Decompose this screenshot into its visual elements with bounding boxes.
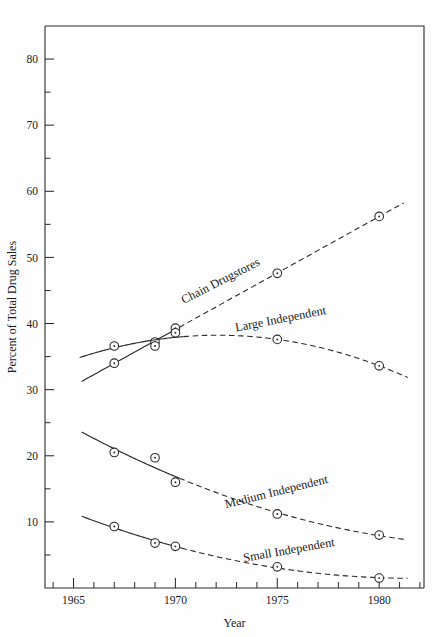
data-point-center: [154, 345, 156, 347]
y-tick-label: 10: [27, 516, 39, 528]
data-point-center: [378, 215, 380, 217]
data-point-center: [113, 362, 115, 364]
data-point-center: [113, 526, 115, 528]
data-point-center: [113, 345, 115, 347]
x-axis-title: Year: [223, 616, 245, 630]
y-tick-label: 50: [27, 252, 39, 264]
series-line-solid: [82, 327, 180, 381]
y-tick-label: 60: [27, 185, 39, 197]
chart-canvas: 10203040506070801965197019751980YearPerc…: [0, 0, 439, 637]
chart-figure: 10203040506070801965197019751980YearPerc…: [0, 0, 439, 637]
y-tick-label: 40: [27, 318, 39, 330]
series-label-small-independent: Small Independent: [242, 535, 336, 565]
y-tick-label: 80: [27, 53, 39, 65]
data-point-center: [154, 457, 156, 459]
data-point-center: [113, 452, 115, 454]
data-point-center: [378, 577, 380, 579]
data-point-center: [378, 534, 380, 536]
data-point-center: [174, 481, 176, 483]
y-tick-label: 30: [27, 384, 39, 396]
data-point-center: [276, 513, 278, 515]
data-point-center: [174, 332, 176, 334]
series-label-chain-drugstores: Chain Drugstores: [179, 255, 263, 307]
data-point-center: [174, 545, 176, 547]
data-point-center: [378, 365, 380, 367]
series-line-dashed: [179, 203, 403, 327]
x-tick-label: 1970: [164, 594, 187, 606]
series-label-medium-independent: Medium Independent: [223, 472, 329, 511]
y-tick-label: 20: [27, 450, 39, 462]
series-line-solid: [82, 432, 180, 478]
data-point-center: [276, 338, 278, 340]
x-tick-label: 1975: [266, 594, 289, 606]
data-point-center: [154, 542, 156, 544]
x-tick-label: 1980: [368, 594, 391, 606]
y-axis-title: Percent of Total Drug Sales: [5, 241, 19, 374]
data-point-center: [276, 566, 278, 568]
series-label-large-independent: Large Independent: [234, 303, 328, 334]
x-tick-label: 1965: [62, 594, 85, 606]
data-point-center: [276, 272, 278, 274]
series-line-dashed: [184, 335, 408, 377]
series-line-solid: [82, 516, 182, 548]
y-tick-label: 70: [27, 119, 39, 131]
